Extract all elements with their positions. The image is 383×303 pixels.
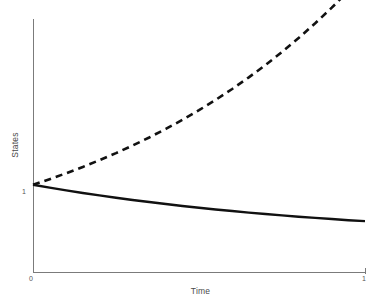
x-axis-title: Time <box>0 286 383 296</box>
x-axis-title-text: Time <box>191 286 210 296</box>
y-axis-title: States <box>10 115 20 175</box>
series-decaying-state <box>33 185 365 221</box>
axes-group <box>34 19 367 274</box>
chart-figure: 1 0 1 Time States <box>0 0 383 303</box>
y-axis-tick-label-1: 1 <box>22 188 26 195</box>
chart-plot-area <box>0 0 383 303</box>
series-group <box>33 0 365 221</box>
x-axis-tick-label-1: 1 <box>362 275 366 282</box>
x-axis-tick-label-0: 0 <box>29 275 33 282</box>
series-growing-state <box>33 0 365 185</box>
